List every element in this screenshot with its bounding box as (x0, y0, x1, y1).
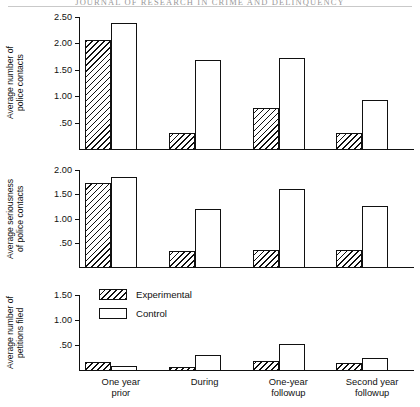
y-axis-line-petitions (79, 295, 80, 371)
bar-petition-control-3 (362, 358, 388, 372)
bar-petition-experimental-0 (85, 362, 111, 371)
bar-petition-control-1 (195, 355, 221, 372)
legend-swatch-control (99, 308, 127, 319)
legend-label-control: Control (136, 308, 167, 319)
figure-root: JOURNAL OF RESEARCH IN CRIME AND DELINQU… (0, 0, 420, 407)
y-tick-label: .50 (59, 340, 72, 350)
x-axis-label-1: During (163, 376, 247, 387)
x-axis-label-2: One-year followup (247, 376, 331, 398)
y-tick-label: 1.50 (54, 290, 72, 300)
legend-item-experimental: Experimental (99, 289, 192, 300)
y-axis-title-petitions: Average number of petitions filed (6, 295, 28, 370)
legend-item-control: Control (99, 308, 167, 319)
bar-petition-control-0 (111, 366, 137, 371)
y-tick-mark (75, 345, 80, 346)
bar-petition-control-2 (279, 344, 305, 372)
x-axis-label-3: Second year followup (330, 376, 414, 398)
bar-petition-experimental-1 (169, 367, 195, 371)
y-tick-mark (75, 320, 80, 321)
bar-petition-experimental-3 (336, 363, 362, 372)
x-axis-label-0: One year prior (79, 376, 163, 398)
legend-swatch-experimental (99, 289, 127, 300)
y-tick-label: 1.00 (54, 315, 72, 325)
chart-panel-petitions: .501.001.50Average number of petitions f… (0, 0, 420, 407)
legend-label-experimental: Experimental (136, 289, 192, 300)
y-tick-mark (75, 295, 80, 296)
bar-petition-experimental-2 (253, 361, 279, 371)
